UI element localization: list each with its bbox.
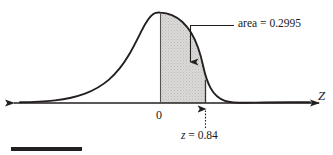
z-value-annotation-label: z = 0.84 [181, 130, 218, 142]
footer-rule-bar [11, 147, 82, 151]
z-axis-label: Z [318, 89, 325, 102]
area-annotation-label: area = 0.2995 [238, 18, 301, 30]
origin-tick-label: 0 [156, 109, 162, 121]
z-value-equation: = 0.84 [185, 129, 217, 141]
shaded-area-region [161, 13, 206, 103]
normal-distribution-figure: area = 0.2995 0 Z z = 0.84 [0, 0, 333, 155]
